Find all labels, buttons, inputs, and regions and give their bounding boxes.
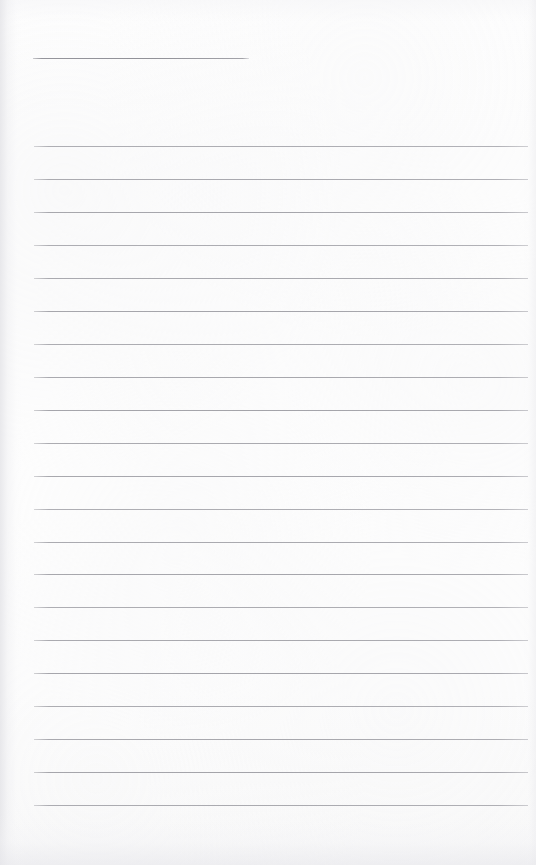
ruled-line — [34, 146, 528, 147]
ruled-line — [34, 344, 528, 345]
ruled-line — [34, 443, 528, 444]
ruled-line — [34, 410, 528, 411]
ruled-line — [34, 212, 528, 213]
ruled-line — [34, 377, 528, 378]
ruled-line — [34, 772, 528, 773]
ruled-line — [34, 245, 528, 246]
ruled-line — [34, 706, 528, 707]
ruled-line — [34, 311, 528, 312]
ruled-line — [34, 640, 528, 641]
ruled-line — [34, 607, 528, 608]
ruled-line — [34, 476, 528, 477]
ruled-line — [34, 574, 528, 575]
paper-background — [0, 0, 536, 865]
ruled-line — [34, 739, 528, 740]
ruled-line — [34, 179, 528, 180]
ruled-line — [34, 673, 528, 674]
notebook-page — [0, 0, 536, 865]
ruled-line — [34, 542, 528, 543]
ruled-line — [34, 509, 528, 510]
ruled-line — [34, 278, 528, 279]
header-rule — [33, 58, 249, 59]
ruled-line — [34, 805, 528, 806]
